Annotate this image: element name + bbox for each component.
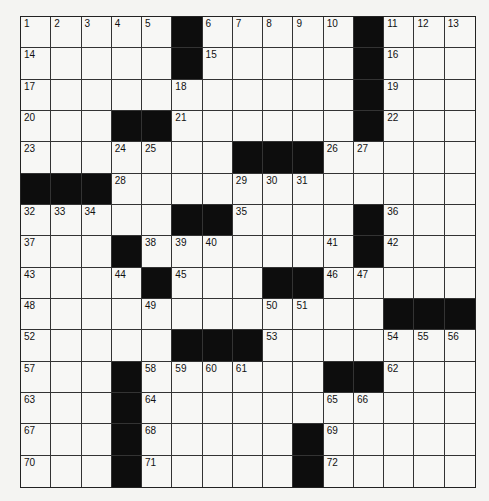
- grid-cell[interactable]: [82, 424, 112, 455]
- grid-cell[interactable]: 56: [445, 330, 475, 361]
- grid-cell[interactable]: [172, 142, 202, 173]
- grid-cell[interactable]: 1: [21, 17, 51, 48]
- grid-cell[interactable]: [324, 330, 354, 361]
- grid-cell[interactable]: 51: [293, 299, 323, 330]
- grid-cell[interactable]: [82, 142, 112, 173]
- grid-cell[interactable]: [354, 174, 384, 205]
- grid-cell[interactable]: 28: [112, 174, 142, 205]
- grid-cell[interactable]: 66: [354, 393, 384, 424]
- grid-cell[interactable]: [203, 142, 233, 173]
- grid-cell[interactable]: [445, 362, 475, 393]
- grid-cell[interactable]: 49: [142, 299, 172, 330]
- grid-cell[interactable]: 65: [324, 393, 354, 424]
- grid-cell[interactable]: 45: [172, 268, 202, 299]
- grid-cell[interactable]: [414, 456, 444, 487]
- grid-cell[interactable]: 36: [384, 205, 414, 236]
- grid-cell[interactable]: [51, 456, 81, 487]
- grid-cell[interactable]: 58: [142, 362, 172, 393]
- grid-cell[interactable]: [324, 48, 354, 79]
- grid-cell[interactable]: [172, 456, 202, 487]
- grid-cell[interactable]: [51, 330, 81, 361]
- grid-cell[interactable]: [293, 330, 323, 361]
- grid-cell[interactable]: [233, 268, 263, 299]
- grid-cell[interactable]: 26: [324, 142, 354, 173]
- grid-cell[interactable]: 35: [233, 205, 263, 236]
- grid-cell[interactable]: 29: [233, 174, 263, 205]
- grid-cell[interactable]: 52: [21, 330, 51, 361]
- grid-cell[interactable]: 71: [142, 456, 172, 487]
- grid-cell[interactable]: [414, 205, 444, 236]
- grid-cell[interactable]: 12: [414, 17, 444, 48]
- grid-cell[interactable]: [445, 48, 475, 79]
- grid-cell[interactable]: [445, 236, 475, 267]
- grid-cell[interactable]: [354, 330, 384, 361]
- grid-cell[interactable]: 53: [263, 330, 293, 361]
- grid-cell[interactable]: 10: [324, 17, 354, 48]
- grid-cell[interactable]: [142, 80, 172, 111]
- grid-cell[interactable]: 62: [384, 362, 414, 393]
- grid-cell[interactable]: [354, 299, 384, 330]
- grid-cell[interactable]: [414, 111, 444, 142]
- grid-cell[interactable]: 59: [172, 362, 202, 393]
- grid-cell[interactable]: [354, 424, 384, 455]
- grid-cell[interactable]: 64: [142, 393, 172, 424]
- grid-cell[interactable]: [445, 268, 475, 299]
- grid-cell[interactable]: 8: [263, 17, 293, 48]
- grid-cell[interactable]: 19: [384, 80, 414, 111]
- grid-cell[interactable]: [203, 80, 233, 111]
- grid-cell[interactable]: [82, 456, 112, 487]
- grid-cell[interactable]: [445, 142, 475, 173]
- grid-cell[interactable]: [51, 142, 81, 173]
- grid-cell[interactable]: [324, 80, 354, 111]
- grid-cell[interactable]: [51, 80, 81, 111]
- grid-cell[interactable]: [384, 424, 414, 455]
- grid-cell[interactable]: [203, 393, 233, 424]
- grid-cell[interactable]: [445, 111, 475, 142]
- grid-cell[interactable]: [445, 205, 475, 236]
- grid-cell[interactable]: [203, 299, 233, 330]
- grid-cell[interactable]: 11: [384, 17, 414, 48]
- grid-cell[interactable]: [263, 236, 293, 267]
- grid-cell[interactable]: [51, 424, 81, 455]
- grid-cell[interactable]: [82, 362, 112, 393]
- grid-cell[interactable]: [445, 393, 475, 424]
- grid-cell[interactable]: 70: [21, 456, 51, 487]
- grid-cell[interactable]: [82, 393, 112, 424]
- grid-cell[interactable]: [142, 205, 172, 236]
- grid-cell[interactable]: [112, 80, 142, 111]
- grid-cell[interactable]: [414, 48, 444, 79]
- grid-cell[interactable]: [233, 424, 263, 455]
- grid-cell[interactable]: [51, 111, 81, 142]
- grid-cell[interactable]: [324, 299, 354, 330]
- grid-cell[interactable]: 30: [263, 174, 293, 205]
- grid-cell[interactable]: [414, 268, 444, 299]
- grid-cell[interactable]: [82, 80, 112, 111]
- grid-cell[interactable]: 72: [324, 456, 354, 487]
- grid-cell[interactable]: 40: [203, 236, 233, 267]
- grid-cell[interactable]: [263, 362, 293, 393]
- grid-cell[interactable]: [445, 174, 475, 205]
- grid-cell[interactable]: [203, 111, 233, 142]
- grid-cell[interactable]: 43: [21, 268, 51, 299]
- grid-cell[interactable]: [384, 456, 414, 487]
- grid-cell[interactable]: [263, 456, 293, 487]
- grid-cell[interactable]: 21: [172, 111, 202, 142]
- grid-cell[interactable]: [233, 48, 263, 79]
- grid-cell[interactable]: [51, 299, 81, 330]
- grid-cell[interactable]: 67: [21, 424, 51, 455]
- grid-cell[interactable]: [414, 174, 444, 205]
- grid-cell[interactable]: 17: [21, 80, 51, 111]
- grid-cell[interactable]: [293, 111, 323, 142]
- grid-cell[interactable]: 14: [21, 48, 51, 79]
- grid-cell[interactable]: 32: [21, 205, 51, 236]
- grid-cell[interactable]: 68: [142, 424, 172, 455]
- grid-cell[interactable]: [384, 393, 414, 424]
- grid-cell[interactable]: [142, 174, 172, 205]
- grid-cell[interactable]: 13: [445, 17, 475, 48]
- grid-cell[interactable]: 54: [384, 330, 414, 361]
- grid-cell[interactable]: 37: [21, 236, 51, 267]
- grid-cell[interactable]: [233, 236, 263, 267]
- grid-cell[interactable]: 50: [263, 299, 293, 330]
- grid-cell[interactable]: [384, 142, 414, 173]
- grid-cell[interactable]: [293, 236, 323, 267]
